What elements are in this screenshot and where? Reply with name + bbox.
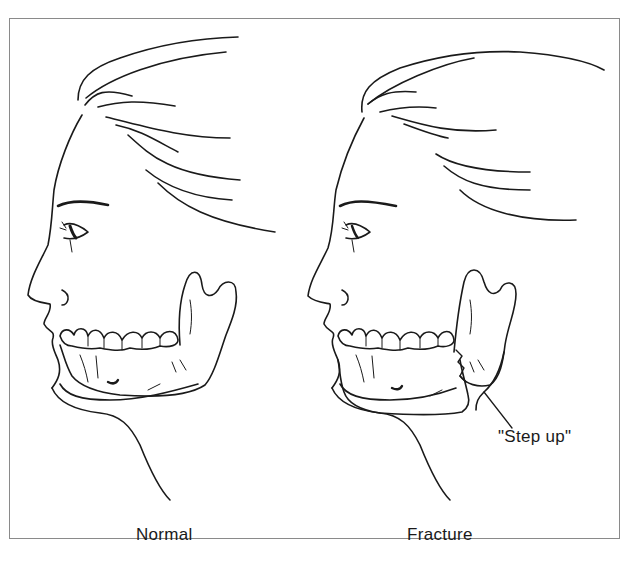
step-up-pointer-line — [484, 392, 512, 428]
caption-normal: Normal — [136, 525, 193, 545]
illustration — [0, 0, 623, 564]
step-up-annotation: "Step up" — [498, 427, 571, 447]
normal-head-drawing — [28, 37, 275, 500]
caption-fracture: Fracture — [407, 525, 473, 545]
